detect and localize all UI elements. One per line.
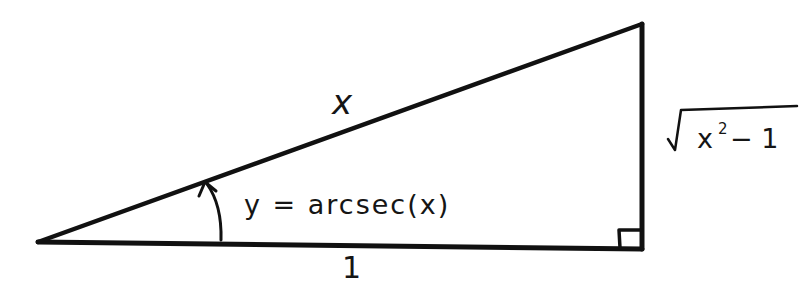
angle-label: y = arcsec(x) xyxy=(244,189,450,220)
right-triangle-diagram: x 1 x 2 − 1 y = arcsec(x) xyxy=(0,0,800,292)
adjacent-side xyxy=(38,242,642,249)
right-angle-marker xyxy=(619,230,641,248)
angle-arc xyxy=(207,184,221,240)
opposite-label: x 2 − 1 xyxy=(668,106,797,154)
hypotenuse-label: x xyxy=(331,82,353,122)
adjacent-label: 1 xyxy=(342,250,361,285)
opposite-label-exponent: 2 xyxy=(718,120,728,138)
opposite-label-base: x xyxy=(697,123,713,154)
opposite-label-rest: − 1 xyxy=(730,123,778,154)
